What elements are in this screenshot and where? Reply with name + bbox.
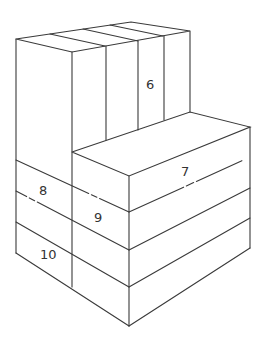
blocks-diagram: 6 7 8 9 10 [0,0,265,346]
label-8: 8 [39,183,47,198]
layer-line-r3 [129,218,250,287]
top-divider-3 [110,25,163,36]
label-6: 6 [146,77,154,92]
layer-line-r4 [129,248,250,326]
label-10: 10 [40,247,57,262]
layer-line-r2 [129,188,250,250]
step-block [16,112,250,326]
label-7: 7 [181,164,189,179]
top-divider-2 [83,29,138,41]
label-9: 9 [94,210,102,225]
step-top-face [72,112,250,176]
top-divider-1 [50,34,105,46]
layer-line-r1 [129,157,250,212]
